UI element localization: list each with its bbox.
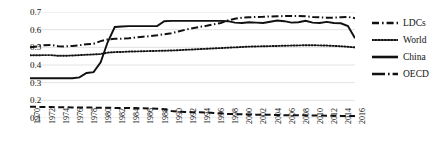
legend-label: China [403,52,426,62]
x-tick-label: 2000 [246,108,254,124]
legend-label: World [403,35,427,45]
legend-item-world[interactable]: World [372,31,444,48]
x-tick-label: 2010 [317,108,325,124]
x-tick-label: 1998 [232,108,240,124]
solid-key [372,52,398,62]
x-tick-label: 1978 [91,108,99,124]
legend-label: LDCs [403,18,426,28]
chart-figure: 0.10.20.30.40.50.60.7 197019721974197619… [0,0,444,157]
x-tick-label: 1982 [119,108,127,124]
x-tick-label: 2002 [260,108,268,124]
x-tick-label: 1980 [105,108,113,124]
x-tick-label: 2004 [275,108,283,124]
dashdot-key [372,69,398,79]
x-tick-label: 1986 [147,108,155,124]
x-tick-label: 1970 [34,108,42,124]
legend-item-ldcs[interactable]: LDCs [372,14,444,31]
plot-area [30,12,355,118]
x-tick-label: 1996 [218,108,226,124]
legend-item-china[interactable]: China [372,48,444,65]
legend-item-oecd[interactable]: OECD [372,65,444,82]
x-tick-label: 1972 [49,108,57,124]
x-tick-label: 1988 [162,108,170,124]
series-line-world [30,45,355,56]
legend-label: OECD [403,69,429,79]
x-tick-label: 1994 [204,108,212,124]
chart-legend: LDCsWorldChinaOECD [372,14,444,82]
x-tick-label: 1984 [133,108,141,124]
x-tick-label: 2016 [359,108,367,124]
x-tick-label: 1990 [176,108,184,124]
dashed-dot-key [372,18,398,28]
x-tick-label: 2006 [289,108,297,124]
x-tick-label: 1992 [190,108,198,124]
x-tick-label: 2008 [303,108,311,124]
x-tick-label: 2012 [331,108,339,124]
chart-svg [30,12,355,118]
x-tick-label: 1976 [77,108,85,124]
dotted-key [372,35,398,45]
x-tick-label: 1974 [63,108,71,124]
x-tick-label: 2014 [345,108,353,124]
